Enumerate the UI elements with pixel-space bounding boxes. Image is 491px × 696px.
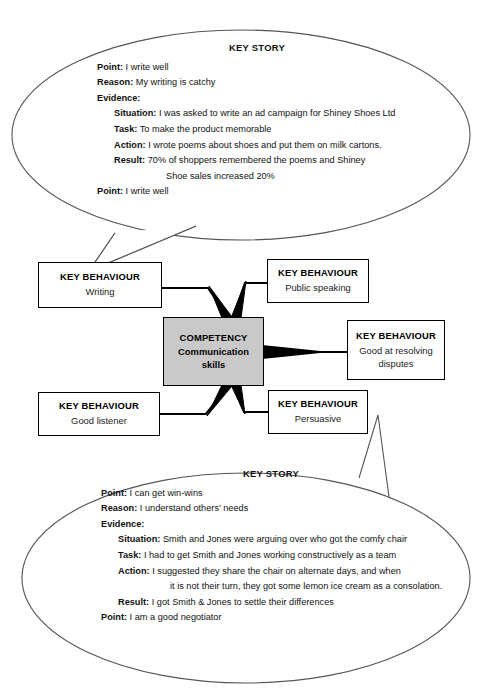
key-behaviour-public-speaking[interactable]: KEY BEHAVIOUR Public speaking [267,259,369,303]
line-label: Evidence: [101,519,144,529]
line-text: My writing is catchy [136,77,216,87]
line-text: I am a good negotiator [130,612,222,622]
line-label: Result: [118,597,149,607]
key-story-bottom-line-situation: Situation: Smith and Jones were arguing … [101,532,441,548]
line-text: I write well [126,186,169,196]
key-behaviour-kind: KEY BEHAVIOUR [60,271,140,283]
key-story-bottom-line-task: Task: I had to get Smith and Jones worki… [101,548,441,564]
key-behaviour-value-line2: disputes [379,358,414,370]
connector-persuasive-thick [231,385,245,414]
key-behaviour-value: Writing [86,286,115,298]
key-story-bottom-line-point-2: Point: I am a good negotiator [101,610,441,626]
key-story-top-line-point-2: Point: I write well [97,184,417,200]
connector-good-listener-thick [207,385,232,416]
connector-resolving-disputes-thick [262,345,330,359]
key-story-top-line-result: Result: 70% of shoppers remembered the p… [97,153,417,169]
key-story-bottom-line-reason: Reason: I understand others’ needs [101,501,441,517]
line-text: it is not their turn, they got some lemo… [170,581,442,591]
line-label: Point: [97,186,123,196]
key-behaviour-kind: KEY BEHAVIOUR [278,267,358,279]
line-label: Evidence: [97,93,140,103]
key-story-top-line-reason: Reason: My writing is catchy [97,75,417,91]
key-behaviour-kind: KEY BEHAVIOUR [356,330,436,342]
key-story-bottom-line-action: Action: I suggested they share the chair… [101,564,441,580]
line-label: Reason: [97,77,133,87]
line-text: 70% of shoppers remembered the poems and… [148,155,366,165]
key-story-top-line-result-cont: Shoe sales increased 20% [97,169,417,185]
key-story-bottom-title: KEY STORY [101,466,441,482]
competency-value-line1: Communication [178,346,249,358]
line-label: Task: [114,124,137,134]
diagram-canvas: KEY STORY Point: I write well Reason: My… [0,0,491,696]
key-story-top-title: KEY STORY [97,40,417,56]
key-behaviour-value: Public speaking [285,282,351,294]
line-label: Point: [97,62,123,72]
line-text: I suggested they share the chair on alte… [152,566,401,576]
key-story-top-line-evidence: Evidence: [97,91,417,107]
line-label: Situation: [114,108,156,118]
key-behaviour-kind: KEY BEHAVIOUR [278,398,358,410]
key-story-bottom-line-action-cont: it is not their turn, they got some lemo… [101,579,441,595]
key-story-top-line-situation: Situation: I was asked to write an ad ca… [97,106,417,122]
line-label: Result: [114,155,145,165]
line-text: I wrote poems about shoes and put them o… [148,140,381,150]
line-label: Point: [101,488,127,498]
key-story-top-line-point-1: Point: I write well [97,60,417,76]
competency-kind: COMPETENCY [179,332,247,344]
key-behaviour-value: Persuasive [295,413,341,425]
competency-node[interactable]: COMPETENCY Communication skills [163,317,264,386]
key-story-top: KEY STORY Point: I write well Reason: My… [97,40,417,200]
key-story-bottom-line-evidence: Evidence: [101,517,441,533]
line-label: Point: [101,612,127,622]
line-text: Shoe sales increased 20% [166,171,275,181]
line-text: Smith and Jones were arguing over who go… [163,534,407,544]
connector-public-speaking-thick [231,281,246,318]
line-text: I can get win-wins [130,488,203,498]
key-behaviour-good-listener[interactable]: KEY BEHAVIOUR Good listener [38,392,160,436]
line-text: I understand others’ needs [140,503,248,513]
key-behaviour-value-line1: Good at resolving [359,345,432,357]
line-text: I write well [126,62,169,72]
key-story-bottom-line-point-1: Point: I can get win-wins [101,486,441,502]
key-behaviour-persuasive[interactable]: KEY BEHAVIOUR Persuasive [268,390,368,434]
line-text: I was asked to write an ad campaign for … [159,108,395,118]
line-text: I had to get Smith and Jones working con… [144,550,396,560]
key-behaviour-value: Good listener [71,415,127,427]
key-story-top-line-task: Task: To make the product memorable [97,122,417,138]
line-label: Action: [118,566,150,576]
line-label: Situation: [118,534,160,544]
key-story-top-line-action: Action: I wrote poems about shoes and pu… [97,138,417,154]
line-text: I got Smith & Jones to settle their diff… [152,597,334,607]
key-behaviour-kind: KEY BEHAVIOUR [59,400,139,412]
line-label: Action: [114,140,146,150]
line-label: Reason: [101,503,137,513]
key-story-bottom-line-result: Result: I got Smith & Jones to settle th… [101,595,441,611]
line-text: To make the product memorable [140,124,272,134]
key-behaviour-writing[interactable]: KEY BEHAVIOUR Writing [38,262,162,308]
key-behaviour-resolving-disputes[interactable]: KEY BEHAVIOUR Good at resolving disputes [347,320,445,380]
key-story-bottom: KEY STORY Point: I can get win-wins Reas… [101,466,441,626]
line-label: Task: [118,550,141,560]
competency-value-line2: skills [202,359,225,371]
connector-writing-thick [209,286,232,318]
